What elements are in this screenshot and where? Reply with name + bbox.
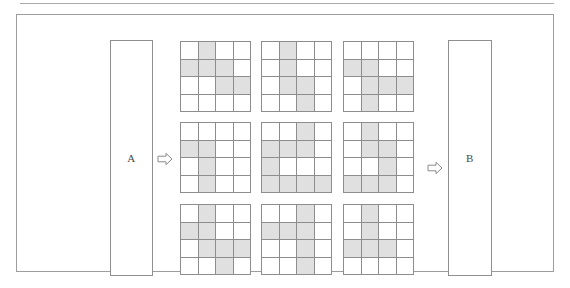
panel-a[interactable]: A — [110, 40, 153, 276]
panel-b[interactable]: B — [448, 40, 492, 276]
grid-cell — [234, 176, 252, 194]
grid-cell — [199, 95, 217, 113]
grid-cell — [397, 240, 415, 258]
grid-cell — [297, 60, 315, 78]
grid-cell — [199, 60, 217, 78]
grid-cluster-5[interactable] — [261, 122, 332, 193]
grid-cell — [234, 42, 252, 60]
grid-cell — [297, 223, 315, 241]
grid-cell — [262, 123, 280, 141]
grid-cell — [181, 60, 199, 78]
grid-cell — [297, 95, 315, 113]
grid-cell — [199, 176, 217, 194]
grid-cell — [280, 240, 298, 258]
grid-cell — [315, 42, 333, 60]
top-horizontal-rule — [20, 3, 554, 4]
grid-cluster-7[interactable] — [180, 204, 251, 275]
grid-cell — [262, 77, 280, 95]
grid-cell — [379, 158, 397, 176]
grid-cell — [344, 77, 362, 95]
grid-cell — [234, 240, 252, 258]
grid-cell — [199, 42, 217, 60]
grid-cluster-9[interactable] — [343, 204, 414, 275]
grid-cell — [379, 95, 397, 113]
grid-cell — [379, 77, 397, 95]
grid-cell — [234, 258, 252, 276]
grid-cell — [344, 158, 362, 176]
grid-cell — [362, 141, 380, 159]
grid-cluster-4[interactable] — [180, 122, 251, 193]
grid-cell — [297, 77, 315, 95]
grid-cell — [362, 60, 380, 78]
grid-cell — [181, 95, 199, 113]
grid-cell — [344, 141, 362, 159]
grid-matrix — [180, 41, 422, 275]
grid-cell — [397, 60, 415, 78]
grid-cell — [315, 123, 333, 141]
grid-cell — [379, 60, 397, 78]
grid-cell — [199, 205, 217, 223]
grid-board-grid-8 — [261, 204, 332, 275]
grid-cell — [297, 42, 315, 60]
grid-cell — [234, 205, 252, 223]
grid-cell — [216, 223, 234, 241]
grid-cell — [315, 95, 333, 113]
grid-cell — [397, 95, 415, 113]
grid-cell — [181, 141, 199, 159]
grid-cell — [262, 258, 280, 276]
grid-cell — [262, 205, 280, 223]
grid-cell — [234, 123, 252, 141]
grid-cell — [216, 42, 234, 60]
grid-cell — [262, 240, 280, 258]
grid-cluster-3[interactable] — [343, 41, 414, 112]
grid-cell — [216, 205, 234, 223]
grid-cell — [181, 240, 199, 258]
grid-cell — [181, 42, 199, 60]
grid-cell — [379, 223, 397, 241]
grid-cell — [344, 123, 362, 141]
grid-board-grid-7 — [180, 204, 251, 275]
grid-cell — [297, 158, 315, 176]
grid-cluster-2[interactable] — [261, 41, 332, 112]
grid-cell — [216, 158, 234, 176]
grid-cell — [280, 60, 298, 78]
grid-cell — [234, 158, 252, 176]
grid-cell — [344, 258, 362, 276]
arrow-right-icon-a-to-grids — [156, 150, 174, 168]
grid-cell — [262, 158, 280, 176]
grid-cell — [362, 42, 380, 60]
grid-cell — [315, 141, 333, 159]
grid-cell — [315, 176, 333, 194]
grid-cell — [181, 77, 199, 95]
grid-cell — [297, 123, 315, 141]
grid-cluster-6[interactable] — [343, 122, 414, 193]
grid-cell — [234, 223, 252, 241]
grid-cell — [362, 158, 380, 176]
grid-cluster-1[interactable] — [180, 41, 251, 112]
grid-cell — [379, 205, 397, 223]
grid-cell — [397, 123, 415, 141]
panel-a-label: A — [127, 152, 135, 164]
grid-cell — [344, 42, 362, 60]
grid-cell — [262, 141, 280, 159]
grid-cell — [297, 205, 315, 223]
grid-cell — [262, 176, 280, 194]
grid-cell — [262, 95, 280, 113]
grid-cell — [397, 158, 415, 176]
grid-cell — [262, 60, 280, 78]
grid-cell — [199, 223, 217, 241]
grid-cell — [344, 223, 362, 241]
grid-cell — [280, 42, 298, 60]
grid-cell — [216, 240, 234, 258]
grid-cell — [216, 141, 234, 159]
grid-cell — [216, 77, 234, 95]
grid-cell — [297, 176, 315, 194]
grid-cluster-8[interactable] — [261, 204, 332, 275]
grid-board-grid-1 — [180, 41, 251, 112]
grid-cell — [234, 95, 252, 113]
grid-cell — [379, 141, 397, 159]
grid-cell — [216, 60, 234, 78]
grid-cell — [362, 223, 380, 241]
grid-cell — [362, 77, 380, 95]
grid-cell — [181, 158, 199, 176]
